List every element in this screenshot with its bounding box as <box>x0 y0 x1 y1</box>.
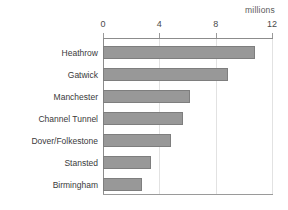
axis-top-line <box>103 38 273 39</box>
category-label: Birmingham <box>53 180 98 190</box>
axis-tick-mark <box>272 33 273 38</box>
bar <box>103 156 151 169</box>
gridline <box>272 39 273 194</box>
axis-tick-label: 8 <box>213 19 218 29</box>
bar <box>103 90 190 103</box>
bar <box>103 134 171 147</box>
bar <box>103 112 183 125</box>
axis-tick-mark <box>216 33 217 38</box>
category-label: Dover/Folkestone <box>31 136 98 146</box>
category-label: Gatwick <box>68 70 98 80</box>
axis-tick-mark <box>159 33 160 38</box>
bar-chart: millions 04812 HeathrowGatwickManchester… <box>0 0 288 210</box>
axis-bottom-line <box>103 194 273 195</box>
bar <box>103 178 142 191</box>
cropped-top-text <box>72 0 202 5</box>
axis-unit-label: millions <box>245 5 275 15</box>
category-label: Heathrow <box>62 48 98 58</box>
category-label: Manchester <box>54 92 98 102</box>
category-label: Stansted <box>64 158 98 168</box>
axis-tick-label: 4 <box>157 19 162 29</box>
axis-tick-mark <box>103 33 104 38</box>
category-label: Channel Tunnel <box>38 114 98 124</box>
axis-tick-label: 0 <box>100 19 105 29</box>
axis-tick-label: 12 <box>267 19 277 29</box>
bar <box>103 68 228 81</box>
gridline <box>216 39 217 194</box>
bar <box>103 46 255 59</box>
